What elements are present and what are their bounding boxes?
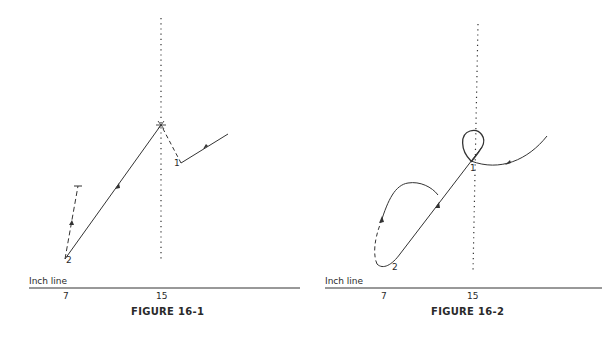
point-label-2: 2 (392, 262, 398, 272)
path-loop (463, 130, 484, 162)
tick-label-15: 15 (156, 291, 167, 301)
point-label-1: 1 (470, 163, 476, 173)
arrow-icon (505, 160, 511, 165)
figure-caption: FIGURE 16-2 (431, 306, 504, 317)
tick-label-7: 7 (381, 291, 387, 301)
point-label-1: 1 (174, 158, 180, 168)
path-segment-down (65, 125, 161, 259)
arrow-icon (69, 220, 74, 225)
figure-16-1-drawing (0, 0, 300, 340)
inch-line-label: Inch line (325, 276, 363, 286)
point-label-2: 2 (66, 255, 72, 265)
figure-16-2-drawing (300, 0, 602, 340)
figure-caption: FIGURE 16-1 (131, 306, 204, 317)
vertical-dotted-line (473, 24, 478, 272)
path-segment-entry (181, 134, 228, 163)
path-segment-dashed-return (375, 222, 381, 264)
inch-line-label: Inch line (29, 276, 67, 286)
tick-label-15: 15 (467, 291, 478, 301)
path-segment-down (377, 147, 482, 267)
path-segment-entry-curve (471, 136, 547, 165)
tick-label-7: 7 (63, 291, 69, 301)
figure-16-2: 1 2 Inch line 7 15 FIGURE 16-2 (300, 0, 602, 340)
figure-16-1: 1 2 Inch line 7 15 FIGURE 16-1 (0, 0, 300, 340)
